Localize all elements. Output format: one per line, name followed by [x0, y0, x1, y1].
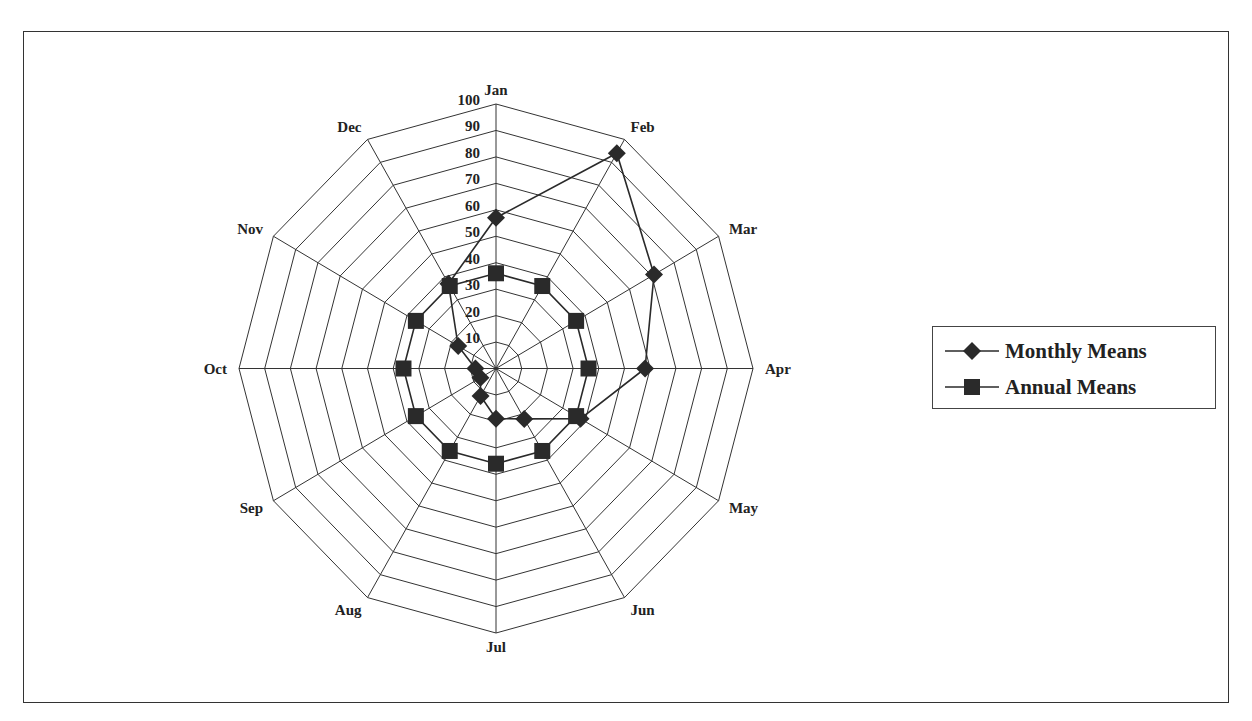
category-label-dec: Dec [337, 119, 361, 135]
diamond-marker-icon [945, 339, 999, 363]
spoke-line [496, 369, 625, 598]
spoke-line [496, 369, 719, 501]
square-marker [534, 443, 550, 459]
square-marker [534, 278, 550, 294]
category-label-jul: Jul [486, 639, 506, 655]
category-label-may: May [729, 500, 759, 516]
square-marker [581, 361, 597, 377]
legend: Monthly Means Annual Means [932, 326, 1216, 409]
radial-tick-label: 20 [465, 304, 480, 320]
square-marker [395, 361, 411, 377]
radial-tick-label: 10 [465, 330, 480, 346]
legend-item-monthly-means: Monthly Means [945, 336, 1147, 366]
radar-spokes [239, 104, 753, 633]
square-marker [442, 443, 458, 459]
square-marker [568, 408, 584, 424]
category-label-apr: Apr [765, 361, 791, 377]
square-marker [408, 408, 424, 424]
diamond-marker [636, 360, 654, 378]
radial-tick-label: 80 [465, 145, 480, 161]
square-marker-icon [945, 375, 999, 399]
square-marker [488, 456, 504, 472]
radial-tick-label: 90 [465, 118, 480, 134]
radial-tick-label: 50 [465, 224, 480, 240]
square-marker [442, 278, 458, 294]
legend-label: Monthly Means [1005, 339, 1147, 364]
legend-item-annual-means: Annual Means [945, 372, 1136, 402]
category-label-oct: Oct [204, 361, 227, 377]
radial-tick-label: 100 [458, 92, 481, 108]
diamond-marker [645, 266, 663, 284]
category-label-aug: Aug [335, 602, 362, 618]
square-marker [488, 265, 504, 281]
diamond-marker [515, 410, 533, 428]
data-series [395, 144, 663, 472]
radial-tick-label: 60 [465, 198, 480, 214]
legend-label: Annual Means [1005, 375, 1136, 400]
square-marker [568, 313, 584, 329]
radial-tick-label: 70 [465, 171, 480, 187]
diamond-marker [608, 144, 626, 162]
square-marker [408, 313, 424, 329]
spoke-line [368, 369, 497, 598]
category-label-feb: Feb [631, 119, 655, 135]
category-label-mar: Mar [729, 221, 758, 237]
category-label-nov: Nov [237, 221, 263, 237]
category-label-sep: Sep [240, 500, 263, 516]
spoke-line [496, 236, 719, 368]
category-label-jun: Jun [631, 602, 656, 618]
category-label-jan: Jan [484, 82, 508, 98]
diamond-marker [487, 410, 505, 428]
spoke-line [273, 369, 496, 501]
diamond-marker [472, 387, 490, 405]
spoke-line [496, 139, 625, 368]
